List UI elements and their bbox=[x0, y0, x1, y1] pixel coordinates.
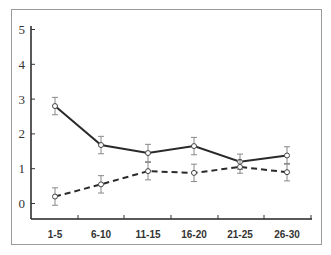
series-line bbox=[55, 106, 287, 162]
x-tick-label: 6-10 bbox=[91, 229, 111, 240]
y-tick-label: 0 bbox=[19, 196, 26, 211]
x-tick-label: 11-15 bbox=[135, 229, 160, 240]
data-point-marker bbox=[146, 169, 151, 174]
data-point-marker bbox=[192, 144, 197, 149]
y-tick-label: 1 bbox=[19, 161, 26, 176]
plot-area bbox=[52, 97, 290, 205]
data-point-marker bbox=[99, 182, 104, 187]
y-tick-label: 3 bbox=[19, 92, 26, 107]
y-tick-label: 5 bbox=[19, 22, 26, 37]
data-point-marker bbox=[238, 164, 243, 169]
x-tick-label: 21-25 bbox=[227, 229, 253, 240]
data-point-marker bbox=[99, 143, 104, 148]
y-tick-label: 2 bbox=[19, 126, 26, 141]
y-tick-label: 4 bbox=[19, 57, 26, 72]
series-line bbox=[55, 167, 287, 197]
x-tick-label: 26-30 bbox=[274, 229, 300, 240]
data-point-marker bbox=[53, 104, 58, 109]
data-point-marker bbox=[285, 170, 290, 175]
x-tick-label: 16-20 bbox=[181, 229, 207, 240]
data-point-marker bbox=[53, 194, 58, 199]
y-axis-labels: 0 1 2 3 4 5 bbox=[19, 22, 26, 211]
x-axis-labels: 1-5 6-10 11-15 16-20 21-25 26-30 bbox=[48, 229, 300, 240]
x-tick-label: 1-5 bbox=[48, 229, 63, 240]
series-2 bbox=[52, 161, 290, 206]
data-point-marker bbox=[192, 170, 197, 175]
series-1 bbox=[52, 97, 290, 169]
data-point-marker bbox=[285, 153, 290, 158]
data-point-marker bbox=[146, 151, 151, 156]
line-chart: 0 1 2 3 4 5 1-5 6-10 11-15 16-20 21-25 2… bbox=[0, 0, 331, 255]
